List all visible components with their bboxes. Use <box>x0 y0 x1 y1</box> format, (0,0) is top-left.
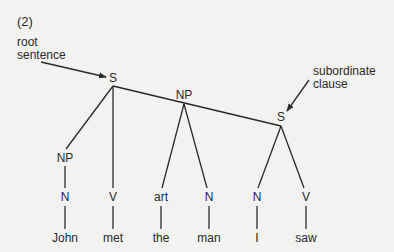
figure-number: (2) <box>17 15 33 28</box>
root-arrow <box>41 62 106 77</box>
node-np-subject: NP <box>57 152 74 165</box>
node-v-met: V <box>109 191 117 204</box>
node-sub-s: S <box>277 111 285 124</box>
word-john: John <box>52 232 78 245</box>
tree-edges <box>0 0 394 252</box>
node-n-john: N <box>61 191 70 204</box>
node-v-saw: V <box>302 191 310 204</box>
subordinate-annotation-line2: clause <box>313 78 348 91</box>
root-annotation-line2: sentence <box>17 49 66 62</box>
node-art-the: art <box>154 191 168 204</box>
word-met: met <box>103 232 123 245</box>
subordinate-arrow <box>287 80 309 111</box>
word-saw: saw <box>295 232 316 245</box>
node-np-object: NP <box>176 89 193 102</box>
word-man: man <box>197 232 220 245</box>
node-n-man: N <box>205 191 214 204</box>
node-root-s: S <box>109 72 117 85</box>
word-the: the <box>153 232 170 245</box>
node-n-i: N <box>253 191 262 204</box>
word-i: I <box>255 232 258 245</box>
